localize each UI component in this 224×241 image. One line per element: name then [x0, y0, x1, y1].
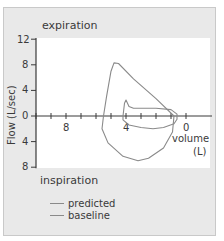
legend-swatch-baseline [50, 215, 64, 216]
legend-item-predicted: predicted [50, 198, 115, 209]
curve-baseline [123, 100, 177, 129]
curves [102, 63, 177, 161]
legend-label: predicted [68, 198, 115, 209]
legend-item-baseline: baseline [50, 210, 110, 221]
axes [31, 38, 212, 168]
legend-swatch-predicted [50, 203, 64, 204]
legend-label: baseline [68, 210, 110, 221]
curve-predicted [102, 63, 174, 161]
